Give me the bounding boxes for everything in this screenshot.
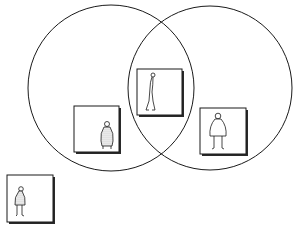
figure-outside-card xyxy=(7,175,55,224)
figure-right-only-card xyxy=(200,108,248,156)
figure-intersection-card xyxy=(137,69,184,117)
venn-diagram xyxy=(0,0,297,228)
figure-left-only-card xyxy=(74,106,121,154)
